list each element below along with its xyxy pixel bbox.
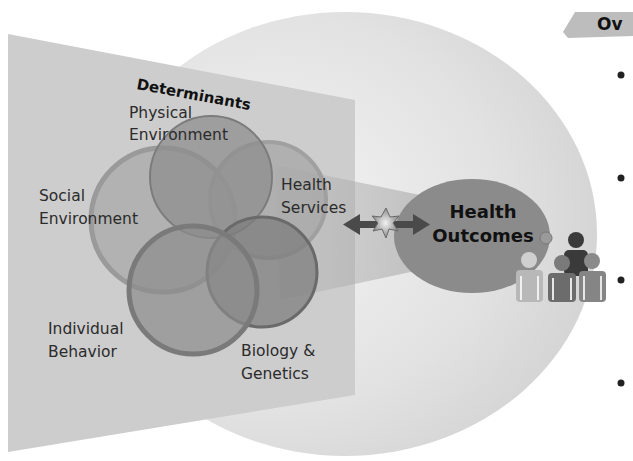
overview-tab[interactable]: Ov — [563, 12, 633, 38]
healthy-people-diagram: Determinants Physical Environment Social… — [0, 0, 633, 461]
label-health-services-line1: Health — [281, 176, 332, 194]
label-physical-line2: Environment — [129, 126, 228, 144]
circle-individual-behavior — [129, 226, 257, 354]
outcomes-line1: Health — [449, 201, 516, 222]
bullet-1 — [618, 72, 625, 79]
label-individual-line1: Individual — [48, 320, 124, 338]
label-individual-line2: Behavior — [48, 343, 117, 361]
overview-bullets — [618, 72, 625, 387]
overview-tab-label: Ov — [597, 14, 623, 34]
bullet-3 — [618, 277, 625, 284]
bullet-4 — [618, 380, 625, 387]
label-social-line1: Social — [39, 187, 85, 205]
outcomes-line2: Outcomes — [432, 225, 533, 246]
label-social-line2: Environment — [39, 210, 138, 228]
label-biology-line2: Genetics — [241, 365, 309, 383]
label-health-services-line2: Services — [281, 199, 346, 217]
bullet-2 — [618, 175, 625, 182]
label-physical-line1: Physical — [129, 104, 192, 122]
label-biology-line1: Biology & — [241, 342, 315, 360]
